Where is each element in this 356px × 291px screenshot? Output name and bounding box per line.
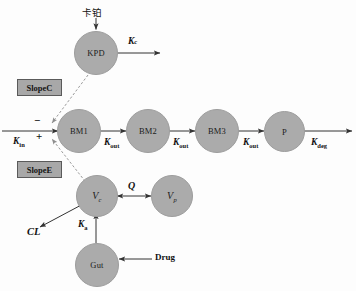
- node-vp[interactable]: Vp: [151, 175, 193, 217]
- node-p[interactable]: P: [264, 111, 305, 152]
- label-kdeg: Kdeg: [311, 137, 327, 149]
- box-slopee-label: SlopeE: [27, 165, 53, 175]
- node-vc-label: Vc: [92, 190, 101, 203]
- label-ka: Ka: [78, 219, 88, 231]
- node-bm3-label: BM3: [208, 126, 226, 136]
- node-bm1-label: BM1: [70, 126, 88, 136]
- node-bm2[interactable]: BM2: [126, 109, 170, 153]
- label-cl: CL: [27, 226, 40, 237]
- diagram-canvas: KPD BM1 BM2 BM3 P Vc Vp Gut SlopeC Slope…: [0, 0, 356, 291]
- node-kpd[interactable]: KPD: [74, 31, 118, 75]
- label-kout-2: Kout: [173, 137, 188, 149]
- label-sign-negative: −: [34, 114, 40, 126]
- node-bm1[interactable]: BM1: [57, 109, 101, 153]
- label-drug-input: Drug: [155, 252, 175, 262]
- node-bm2-label: BM2: [139, 126, 157, 136]
- label-q: Q: [128, 180, 135, 191]
- box-slopee[interactable]: SlopeE: [17, 161, 62, 178]
- node-kpd-label: KPD: [87, 48, 105, 58]
- label-kin: Kin: [13, 136, 25, 148]
- label-sign-positive: +: [36, 130, 42, 142]
- node-bm3[interactable]: BM3: [195, 109, 239, 153]
- label-kout-1: Kout: [104, 137, 119, 149]
- label-kc: Kc: [128, 36, 137, 46]
- node-p-label: P: [282, 127, 287, 137]
- node-vc[interactable]: Vc: [76, 175, 118, 217]
- box-slopec-label: SlopeC: [27, 83, 53, 93]
- node-gut-label: Gut: [90, 260, 103, 270]
- label-kout-3: Kout: [243, 137, 258, 149]
- node-vp-label: Vp: [167, 190, 177, 203]
- label-carboplatin-input: 卡铂: [82, 5, 102, 19]
- box-slopec[interactable]: SlopeC: [17, 79, 62, 96]
- node-gut[interactable]: Gut: [75, 243, 119, 287]
